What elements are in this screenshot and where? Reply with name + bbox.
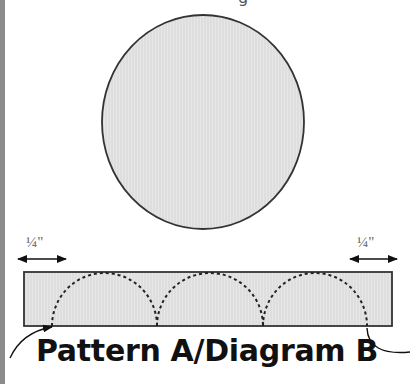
left-measure-label: ¼" — [26, 235, 43, 250]
circle-template — [102, 15, 304, 229]
right-measure-label: ¼" — [357, 235, 374, 250]
pattern-diagram — [0, 0, 414, 384]
diagram-caption: Pattern A/Diagram B — [0, 336, 414, 366]
